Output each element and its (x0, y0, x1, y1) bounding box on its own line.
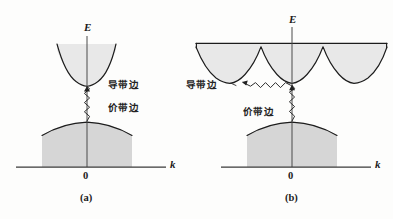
panel-b-phonon-squiggle (243, 83, 291, 88)
panel-a-momentum-axis-label: k (170, 159, 176, 170)
panel-b-energy-axis-label: E (289, 14, 296, 25)
panel-a-valence-band-edge-label: 价带边 (108, 103, 139, 113)
panel-b-conduction-band-edge-label: 导带边 (186, 80, 217, 90)
panel-a-energy-axis-label: E (84, 22, 91, 33)
panel-b-valence-band-edge-label: 价带边 (243, 107, 274, 117)
panel-a-caption: (a) (80, 193, 92, 204)
band-diagram-canvas (0, 0, 393, 219)
panel-b-caption: (b) (285, 193, 298, 204)
panel-a-conduction-band-edge-label: 导带边 (108, 80, 139, 90)
panel-b-origin-label: 0 (288, 171, 293, 182)
panel-a-graphics (16, 36, 166, 167)
panel-b-momentum-axis-label: k (375, 159, 381, 170)
band-diagram-figure: E k 0 导带边 价带边 (a) E k 0 导带边 价带边 (b) (0, 0, 393, 219)
panel-b-conduction-label-leader (231, 83, 236, 85)
panel-a-origin-label: 0 (83, 171, 88, 182)
panel-b-graphics (196, 27, 387, 167)
